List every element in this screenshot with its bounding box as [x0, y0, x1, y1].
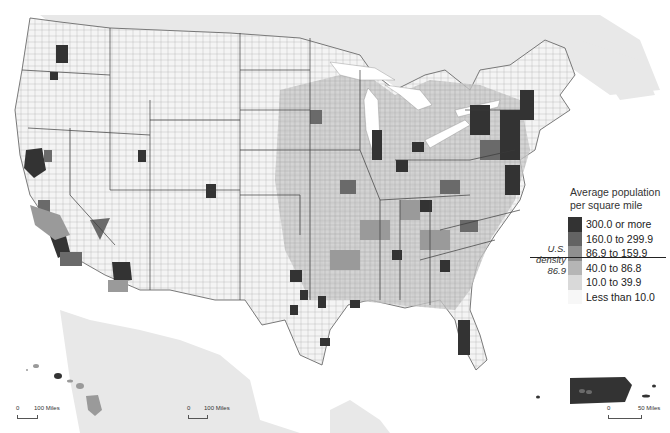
density-note-line2: density [522, 254, 566, 265]
legend-row-10-39: 10.0 to 39.9 [568, 275, 670, 290]
legend-swatch [568, 232, 582, 247]
alaska-scale-bar: 0 100 Miles [17, 413, 37, 419]
legend-title-line1: Average population [570, 186, 670, 199]
legend-classes: 300.0 or more 160.0 to 299.9 86.9 to 159… [568, 217, 670, 304]
us-density-note: U.S. density 86.9 [522, 243, 566, 276]
contiguous-us [15, 18, 575, 370]
scale-start: 0 [607, 405, 610, 411]
legend-label: 160.0 to 299.9 [586, 233, 653, 245]
scale-start: 0 [187, 405, 190, 411]
legend-swatch [568, 290, 582, 305]
legend-label: Less than 10.0 [586, 291, 655, 303]
legend-swatch [568, 217, 582, 232]
legend-swatch [568, 275, 582, 290]
density-note-line1: U.S. [522, 243, 566, 254]
hawaii-scale-bar: 0 100 Miles [188, 413, 207, 419]
density-note-value: 86.9 [522, 265, 566, 276]
legend-title-line2: per square mile [570, 199, 670, 212]
scale-end: 50 Miles [638, 405, 660, 411]
scale-end: 100 Miles [204, 405, 230, 411]
legend-row-86-159: 86.9 to 159.9 [568, 246, 670, 261]
scale-start: 0 [16, 405, 19, 411]
legend-row-40-86: 40.0 to 86.8 [568, 261, 670, 276]
legend-label: 300.0 or more [586, 218, 651, 230]
scale-end: 100 Miles [34, 405, 60, 411]
legend: Average population per square mile 300.0… [568, 186, 670, 304]
legend-row-300-plus: 300.0 or more [568, 217, 670, 232]
legend-row-under-10: Less than 10.0 [568, 290, 670, 305]
legend-swatch [568, 261, 582, 276]
legend-title: Average population per square mile [570, 186, 670, 212]
legend-row-160-299: 160.0 to 299.9 [568, 232, 670, 247]
legend-label: 10.0 to 39.9 [586, 276, 641, 288]
puerto-rico-inset [536, 377, 656, 404]
legend-swatch [568, 246, 582, 261]
puerto-rico-scale-bar: 0 50 Miles [608, 413, 641, 419]
legend-label: 40.0 to 86.8 [586, 262, 641, 274]
